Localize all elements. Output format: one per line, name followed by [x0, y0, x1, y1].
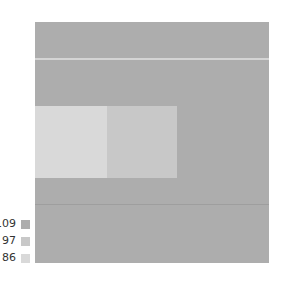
heatmap-cell-86	[35, 106, 107, 178]
legend-item: 97	[0, 237, 30, 247]
legend-swatch	[21, 237, 30, 246]
legend-label: 86	[2, 251, 16, 264]
legend-swatch	[21, 254, 30, 263]
heatmap-plot	[35, 22, 269, 263]
legend-item: 86	[0, 254, 30, 264]
heatmap-cell-97	[107, 106, 177, 178]
legend-label: 97	[2, 234, 16, 247]
legend-item: 109	[0, 220, 30, 230]
dark-row-line	[35, 204, 269, 205]
legend-label: 109	[0, 217, 16, 230]
legend-swatch	[21, 220, 30, 229]
light-row-line	[35, 58, 269, 60]
